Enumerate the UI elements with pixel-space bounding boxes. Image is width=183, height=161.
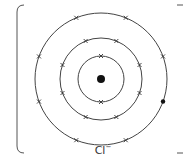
ion-diagram <box>0 0 183 161</box>
electron-cross <box>84 39 88 43</box>
right-bracket <box>177 5 183 153</box>
ion-label: Cl− <box>88 143 118 157</box>
electron-cross <box>114 115 118 119</box>
electron-cross <box>74 138 78 142</box>
electron-cross <box>84 115 88 119</box>
left-bracket <box>17 5 24 153</box>
electron-cross <box>114 39 118 43</box>
electron-dot <box>161 99 165 103</box>
electron-cross <box>74 16 78 20</box>
electron-cross <box>124 138 128 142</box>
nucleus <box>97 75 105 83</box>
electron-cross <box>124 16 128 20</box>
